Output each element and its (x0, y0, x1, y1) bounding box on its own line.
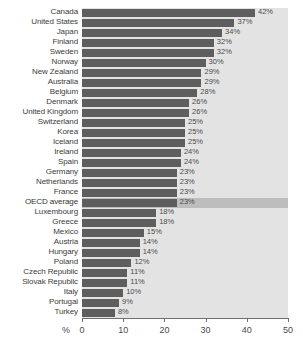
bar-value-label: 8% (118, 307, 129, 317)
bar-chart: Canada42%United States37%Japan34%Finland… (0, 0, 303, 356)
bar-value-label: 37% (237, 17, 252, 27)
category-label: Slovak Republic (0, 277, 78, 287)
category-label: Hungary (0, 247, 78, 257)
bar-value-label: 42% (258, 7, 273, 17)
bar (82, 109, 189, 117)
x-axis-line (82, 318, 288, 319)
x-axis-tick (164, 318, 165, 322)
bar (82, 199, 177, 207)
bar (82, 269, 127, 277)
bar-value-label: 25% (188, 117, 203, 127)
bar-value-label: 10% (126, 287, 141, 297)
category-label: Canada (0, 7, 78, 17)
category-label: Portugal (0, 297, 78, 307)
bar (82, 279, 127, 287)
bar-value-label: 28% (200, 87, 215, 97)
bar (82, 9, 255, 17)
bar (82, 49, 214, 57)
bar-value-label: 32% (217, 37, 232, 47)
bar-value-label: 9% (122, 297, 133, 307)
bar (82, 69, 201, 77)
bar-value-label: 25% (188, 127, 203, 137)
bar-value-label: 14% (143, 237, 158, 247)
category-label: Mexico (0, 227, 78, 237)
bar (82, 239, 140, 247)
bar-value-label: 30% (209, 57, 224, 67)
x-axis-unit-label: % (62, 325, 70, 336)
bar-value-label: 34% (225, 27, 240, 37)
category-label: Poland (0, 257, 78, 267)
bar-value-label: 11% (130, 277, 144, 287)
bar (82, 299, 119, 307)
bar-value-label: 23% (180, 187, 195, 197)
bar-value-label: 23% (180, 177, 195, 187)
category-label: Switzerland (0, 117, 78, 127)
bar-value-label: 23% (180, 167, 195, 177)
category-label: Japan (0, 27, 78, 37)
bar (82, 59, 206, 67)
bar-value-label: 11% (130, 267, 144, 277)
category-label: OECD average (0, 197, 78, 207)
category-label: New Zealand (0, 67, 78, 77)
bar (82, 189, 177, 197)
bar (82, 259, 131, 267)
bar-value-label: 25% (188, 137, 203, 147)
x-axis-tick-label: 20 (154, 325, 174, 336)
category-label: Norway (0, 57, 78, 67)
x-axis-tick-label: 0 (72, 325, 92, 336)
category-label: Finland (0, 37, 78, 47)
bar (82, 229, 144, 237)
category-label: United Kingdom (0, 107, 78, 117)
category-label: Denmark (0, 97, 78, 107)
bar (82, 249, 140, 257)
category-label: United States (0, 17, 78, 27)
category-label: Greece (0, 217, 78, 227)
x-axis-tick (247, 318, 248, 322)
x-axis-tick (123, 318, 124, 322)
category-label: Luxembourg (0, 207, 78, 217)
bar (82, 149, 181, 157)
bar (82, 19, 234, 27)
category-label: Korea (0, 127, 78, 137)
x-axis-tick-label: 50 (278, 325, 298, 336)
category-label: Belgium (0, 87, 78, 97)
bar (82, 209, 156, 217)
category-label: Austria (0, 237, 78, 247)
category-label: Czech Republic (0, 267, 78, 277)
category-label: Turkey (0, 307, 78, 317)
category-label: France (0, 187, 78, 197)
category-label: Italy (0, 287, 78, 297)
chart-bar-rows: Canada42%United States37%Japan34%Finland… (0, 8, 303, 318)
category-label: Sweden (0, 47, 78, 57)
bar-value-label: 23% (180, 197, 195, 207)
bar (82, 79, 201, 87)
bar (82, 159, 181, 167)
category-label: Spain (0, 157, 78, 167)
bar (82, 99, 189, 107)
category-label: Australia (0, 77, 78, 87)
bar (82, 179, 177, 187)
bar-value-label: 24% (184, 157, 199, 167)
bar (82, 39, 214, 47)
x-axis-tick (288, 318, 289, 322)
x-axis-tick-label: 30 (196, 325, 216, 336)
bar (82, 89, 197, 97)
bar (82, 139, 185, 147)
bar-value-label: 18% (159, 207, 174, 217)
category-label: Ireland (0, 147, 78, 157)
bar (82, 119, 185, 127)
bar (82, 169, 177, 177)
bar (82, 219, 156, 227)
bar-value-label: 18% (159, 217, 174, 227)
x-axis-tick (206, 318, 207, 322)
bar-value-label: 12% (134, 257, 149, 267)
chart-row: Turkey8% (0, 308, 303, 318)
category-label: Germany (0, 167, 78, 177)
bar-value-label: 14% (143, 247, 158, 257)
bar-value-label: 29% (204, 77, 219, 87)
bar-value-label: 24% (184, 147, 199, 157)
bar (82, 29, 222, 37)
bar-value-label: 29% (204, 67, 219, 77)
bar (82, 129, 185, 137)
bar (82, 289, 123, 297)
